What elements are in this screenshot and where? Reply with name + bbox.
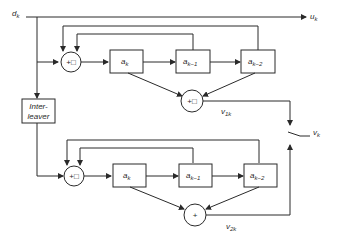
encoder1-feedback-2	[63, 26, 258, 51]
encoder2-tap-ak2	[206, 187, 259, 209]
encoder-2: +□ ak ak−1 ak−2 + v2k	[64, 140, 290, 232]
encoder2-tap-ak	[130, 187, 184, 209]
encoder2-feedback-2	[67, 140, 259, 165]
turbo-encoder-diagram: dk uk Inter- leaver +□ ak ak−1 ak−2 +□ v…	[0, 0, 337, 243]
encoder1-output-adder-symbol: +□	[187, 97, 197, 106]
encoder-1: +□ ak ak−1 ak−2 +□ v1k	[61, 26, 290, 125]
puncture-switch	[288, 132, 300, 136]
encoder2-output-adder-symbol: +	[193, 211, 198, 220]
input-label: dk	[12, 9, 20, 19]
encoder1-tap-ak2	[203, 73, 255, 96]
interleaver-label-1: Inter-	[29, 102, 48, 111]
encoder1-input-adder-symbol: +□	[66, 58, 76, 67]
parity1-line	[203, 101, 290, 125]
systematic-output-label: uk	[310, 12, 318, 22]
encoder2-feedback-1	[80, 148, 193, 165]
encoder2-input-adder-symbol: +□	[69, 172, 79, 181]
encoder1-feedback-1	[77, 34, 193, 51]
parity2-label: v2k	[226, 222, 237, 232]
interleaver-label-2: leaver	[28, 112, 50, 121]
punctured-output-label: vk	[313, 128, 321, 138]
encoder1-tap-ak	[128, 73, 182, 96]
parity1-label: v1k	[221, 107, 232, 117]
